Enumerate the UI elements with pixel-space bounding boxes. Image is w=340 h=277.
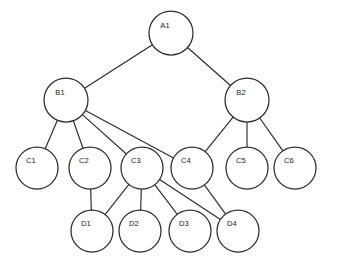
node-circle-b2[interactable] (225, 78, 269, 122)
node-label-d3: D3 (179, 219, 189, 228)
edge-c3-d1 (105, 184, 129, 214)
edge-layer (45, 45, 283, 220)
node-label-c4: C4 (181, 156, 191, 165)
node-circle-c2[interactable] (69, 147, 111, 189)
node-circle-d2[interactable] (119, 210, 161, 252)
node-label-d1: D1 (81, 219, 91, 228)
node-c1[interactable]: C1 (16, 147, 58, 189)
node-c3[interactable]: C3 (121, 147, 163, 189)
edge-b1-c2 (73, 121, 83, 148)
node-c2[interactable]: C2 (69, 147, 111, 189)
node-b1[interactable]: B1 (44, 78, 88, 122)
node-circle-c5[interactable] (226, 147, 268, 189)
node-label-c5: C5 (236, 156, 246, 165)
node-circle-c6[interactable] (274, 147, 316, 189)
edge-b2-c4 (205, 117, 233, 152)
node-circle-a1[interactable] (149, 11, 193, 55)
edge-a1-b1 (85, 45, 153, 88)
edge-c3-d2 (141, 189, 142, 210)
node-circle-c4[interactable] (171, 147, 213, 189)
node-c6[interactable]: C6 (274, 147, 316, 189)
node-c5[interactable]: C5 (226, 147, 268, 189)
node-circle-d4[interactable] (217, 210, 259, 252)
edge-c2-d1 (91, 189, 92, 210)
node-circle-d1[interactable] (71, 210, 113, 252)
node-circle-c3[interactable] (121, 147, 163, 189)
tree-diagram-svg: A1B1B2C1C2C3C4C5C6D1D2D3D4 (0, 0, 340, 277)
node-d2[interactable]: D2 (119, 210, 161, 252)
node-label-b2: B2 (236, 88, 246, 97)
edge-b2-c6 (260, 118, 283, 151)
node-label-c6: C6 (284, 156, 294, 165)
node-label-a1: A1 (160, 21, 170, 30)
node-circle-d3[interactable] (169, 210, 211, 252)
node-c4[interactable]: C4 (171, 147, 213, 189)
node-label-c1: C1 (26, 156, 36, 165)
node-circle-c1[interactable] (16, 147, 58, 189)
node-a1[interactable]: A1 (149, 11, 193, 55)
node-b2[interactable]: B2 (225, 78, 269, 122)
node-layer: A1B1B2C1C2C3C4C5C6D1D2D3D4 (16, 11, 316, 252)
edge-b1-c1 (45, 120, 57, 148)
edge-c4-d4 (204, 185, 225, 214)
node-label-d2: D2 (129, 219, 139, 228)
node-label-c3: C3 (131, 156, 141, 165)
node-label-b1: B1 (55, 88, 65, 97)
tree-diagram-canvas: A1B1B2C1C2C3C4C5C6D1D2D3D4 (0, 0, 340, 277)
node-label-d4: D4 (227, 219, 237, 228)
node-d1[interactable]: D1 (71, 210, 113, 252)
node-d4[interactable]: D4 (217, 210, 259, 252)
edge-a1-b2 (188, 48, 231, 86)
node-d3[interactable]: D3 (169, 210, 211, 252)
node-label-c2: C2 (79, 156, 89, 165)
node-circle-b1[interactable] (44, 78, 88, 122)
